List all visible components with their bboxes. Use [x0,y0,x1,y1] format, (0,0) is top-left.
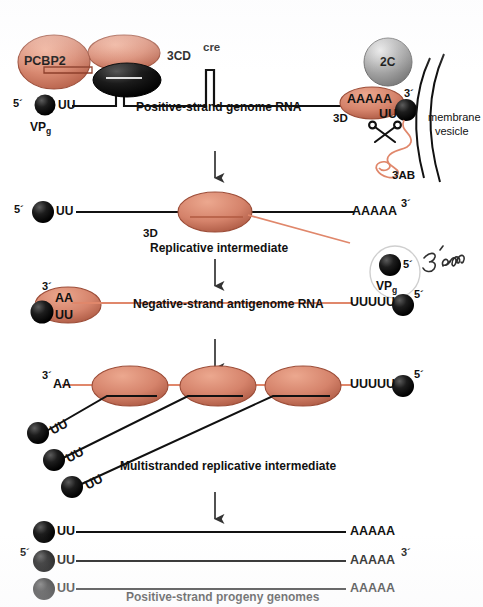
vpg-bead-progeny-1 [33,521,55,543]
polyA-label-stage1: AAAAA [347,93,392,106]
five-prime-label-free-vpg: 5´ [403,259,413,270]
stage5-caption: Positive-strand progeny genomes [126,591,319,603]
aa-label-stage4: AA [53,378,71,391]
vpg-label-stage1: VPg [30,121,51,136]
polyU-label-stage4: UUUUU [350,378,395,391]
polyA-label-progeny-2: AAAAA [350,554,395,567]
vpg-bead-stage1 [35,95,56,116]
protein-3ab-label: 3AB [392,170,415,182]
stage1-caption: Positive-strand genome RNA [136,101,301,113]
pcbp2-label: PCBP2 [24,55,66,68]
polymerase-oval-stage4-1 [92,366,168,406]
five-prime-label-stage3: 5´ [414,289,424,300]
five-prime-label-stage4: 5´ [414,369,424,380]
stage3-caption: Negative-strand antigenome RNA [133,298,324,310]
vpg-bead-stage4-3 [61,476,83,498]
cre-label: cre [203,42,220,54]
vpg-bead-stage4-2 [43,449,65,471]
vpg-main: VP [30,120,46,134]
polyA-label-stage2: AAAAA [352,205,397,218]
vpg-bead-membrane [395,99,417,121]
polymerase-oval-stage4-2 [180,366,256,406]
membrane-vesicle-label-line1: membrane [428,112,481,123]
polymerase-oval-stage4-3 [265,366,341,406]
five-prime-label-stage2: 5´ [14,204,24,215]
vpg-bead-stage4-1 [27,422,49,444]
vpg-main-free: VP [376,279,392,293]
nascent-negative-strand-stage2 [248,215,350,243]
uu-label-progeny-3: UU [57,582,75,595]
vpg-bead-stage3 [31,301,54,324]
uu-label-progeny-1: UU [57,525,75,538]
vpg-sub-free: g [392,285,397,295]
vpg-sub: g [46,126,51,136]
aa-label-stage3: AA [55,292,73,305]
three-prime-label-stage5: 3´ [401,547,411,558]
vpg-bead-stage3-right [392,294,414,316]
nascent-strand-stage4-3 [75,396,330,487]
protein-3d-oval [93,63,161,97]
three-prime-label-stage2: 3´ [401,198,411,209]
protein-3cd-label: 3CD [167,50,191,62]
five-prime-label-stage5: 5´ [20,547,30,558]
uu-label-progeny-2: UU [57,554,75,567]
stage4-caption: Multistranded replicative intermediate [120,460,336,472]
polyA-label-progeny-3: AAAAA [350,582,395,595]
five-prime-label-stage1: 5´ [13,98,23,109]
uu-label-stage2: UU [56,205,73,217]
uu-label-stage3: UU [55,309,73,322]
polymerase-3d-label-stage1: 3D [333,113,348,125]
vpg-bead-free [379,254,401,276]
vpg-label-free: VPg [376,280,397,295]
vpg-bead-progeny-2 [33,550,55,572]
polymerase-3d-label-stage2: 3D [143,228,158,240]
protein-2c-label: 2C [380,56,395,68]
polyU-label-stage3: UUUUU [350,296,395,309]
polymerase-3d-oval-stage2 [178,192,252,232]
vpg-bead-stage4-right [392,375,414,397]
three-prime-label-stage1: 3´ [404,88,414,99]
polyA-label-progeny-1: AAAAA [350,525,395,538]
scissors-icon [369,122,401,142]
vpg-bead-progeny-3 [33,578,55,600]
uu-label-stage1-left: UU [58,99,75,111]
figure-canvas: PCBP2 3CD cre 5´ UU VPg Positive-strand … [0,0,483,607]
stage2-caption: Replicative intermediate [150,242,288,254]
three-prime-label-stage3: 3´ [42,281,52,292]
membrane-vesicle-label-line2: vesicle [435,126,469,137]
vpg-bead-stage2 [32,201,54,223]
uu-label-stage1-right: UU [379,108,397,121]
handwritten-3prime-end-annotation [423,246,464,272]
three-prime-label-stage4: 3´ [42,370,52,381]
stage5-group [33,521,346,600]
